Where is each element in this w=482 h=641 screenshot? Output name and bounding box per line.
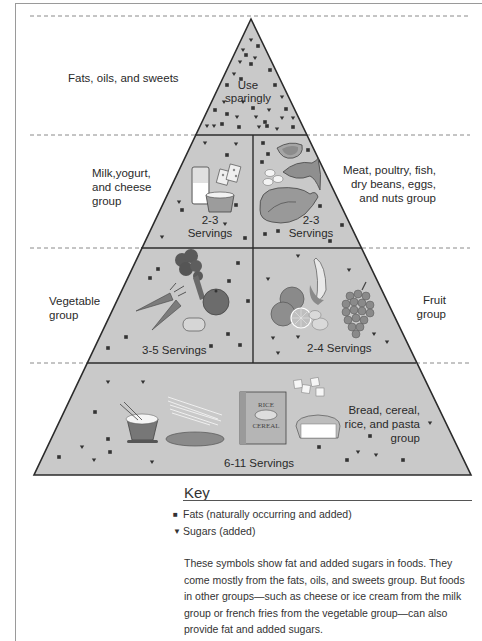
meat-servings-line2: Servings — [281, 227, 341, 240]
potato-illustration — [183, 318, 205, 331]
key-item-fats: ■ Fats (naturally occurring and added) — [173, 508, 352, 520]
use-sparingly-line1: Use — [218, 79, 278, 92]
vegetable-servings-label: 3-5 Servings — [142, 343, 207, 357]
meat-group-line3: and nuts group — [336, 191, 436, 205]
use-sparingly-label: Use sparingly — [218, 79, 278, 105]
key-description: These symbols show fat and added sugars … — [184, 555, 474, 638]
meat-servings-line1: 2-3 — [281, 214, 341, 227]
bread-group-line1: Bread, cereal, — [330, 403, 420, 417]
fruit-group-line1: Fruit — [400, 293, 446, 307]
fats-oils-sweets-label: Fats, oils, and sweets — [68, 71, 179, 85]
milk-servings-line2: Servings — [180, 227, 240, 240]
bread-group-line3: group — [330, 431, 420, 445]
key-item-sugars-label: Sugars (added) — [183, 525, 255, 537]
meat-group-label: Meat, poultry, fish, dry beans, eggs, an… — [336, 163, 436, 205]
cereal-box-label-rice: RICE — [258, 401, 274, 409]
cereal-box-label-cereal: CEREAL — [252, 422, 279, 430]
milk-group-line2: and cheese — [92, 180, 151, 194]
vegetable-group-label: Vegetable group — [49, 294, 100, 322]
milk-group-line3: group — [92, 194, 151, 208]
key-title: Key — [184, 484, 210, 501]
meat-group-line2: dry beans, eggs, — [336, 177, 436, 191]
milk-servings-label: 2-3 Servings — [180, 214, 240, 240]
fat-square-icon: ■ — [173, 510, 183, 519]
bread-group-label: Bread, cereal, rice, and pasta group — [330, 403, 420, 445]
vegetable-group-line1: Vegetable — [49, 294, 100, 308]
lemon-slice-illustration — [291, 308, 311, 328]
fruit-group-line2: group — [400, 307, 446, 321]
meat-group-line1: Meat, poultry, fish, — [336, 163, 436, 177]
cereal-box-illustration: RICE CEREAL — [240, 392, 286, 444]
use-sparingly-line2: sparingly — [218, 92, 278, 105]
sugar-triangle-icon: ▼ — [173, 527, 183, 536]
bread-loaf-illustration — [166, 432, 224, 446]
milk-servings-line1: 2-3 — [180, 214, 240, 227]
meat-servings-label: 2-3 Servings — [281, 214, 341, 240]
yogurt-cup-illustration — [206, 192, 234, 212]
key-item-sugars: ▼ Sugars (added) — [173, 525, 255, 537]
bread-group-line2: rice, and pasta — [330, 417, 420, 431]
fruit-servings-label: 2-4 Servings — [307, 341, 372, 355]
bread-servings-label: 6-11 Servings — [224, 456, 294, 470]
fruit-group-label: Fruit group — [400, 293, 446, 321]
milk-group-line1: Milk,yogurt, — [92, 166, 151, 180]
key-divider — [183, 500, 472, 501]
milk-group-label: Milk,yogurt, and cheese group — [92, 166, 151, 208]
key-item-fats-label: Fats (naturally occurring and added) — [183, 508, 352, 520]
tomato-illustration — [203, 289, 229, 315]
vegetable-group-line2: group — [49, 308, 100, 322]
